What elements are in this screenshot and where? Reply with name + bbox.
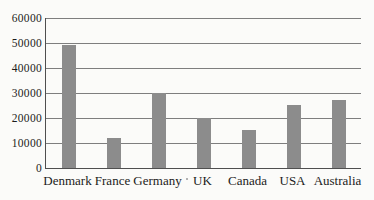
bar-germany: [152, 93, 166, 168]
x-label-usa: USA: [279, 173, 305, 188]
plot-area: [45, 18, 361, 169]
y-tick-label-60000: 60000: [0, 13, 42, 24]
bar-france: [107, 138, 121, 168]
gridline-40000: [46, 68, 361, 69]
y-tick-label-40000: 40000: [0, 63, 42, 74]
bar-usa: [287, 105, 301, 168]
bar-australia: [332, 100, 346, 168]
bar-uk: [197, 118, 211, 168]
x-label-france: France: [95, 173, 130, 188]
x-label-denmark: Denmark: [43, 173, 91, 188]
bar-canada: [242, 130, 256, 168]
x-label-uk: UK: [193, 173, 212, 188]
gridline-50000: [46, 43, 361, 44]
x-label-australia: Australia: [314, 173, 362, 188]
y-tick-label-50000: 50000: [0, 38, 42, 49]
scan-speckle: [186, 178, 188, 180]
x-label-canada: Canada: [228, 173, 267, 188]
gridline-30000: [46, 93, 361, 94]
y-tick-label-10000: 10000: [0, 138, 42, 149]
bar-chart: 0100002000030000400005000060000DenmarkFr…: [0, 0, 374, 200]
bar-denmark: [62, 45, 76, 168]
x-label-germany: Germany: [133, 173, 181, 188]
y-tick-label-0: 0: [0, 163, 42, 174]
y-tick-label-30000: 30000: [0, 88, 42, 99]
y-tick-label-20000: 20000: [0, 113, 42, 124]
gridline-60000: [46, 18, 361, 19]
